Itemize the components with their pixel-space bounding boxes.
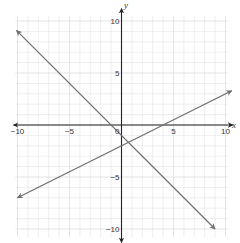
coordinate-plane: −10−5510105−5−10 x y 0 [0,0,240,243]
x-tick-label: 10 [221,127,230,136]
origin-label: 0 [115,127,120,136]
x-axis-label: x [231,120,236,130]
y-tick-label: 10 [111,17,120,26]
x-tick-label: 5 [171,127,176,136]
x-tick-label: −5 [65,127,75,136]
axes [13,9,232,243]
y-axis-label: y [123,0,128,10]
x-tick-label: −10 [11,127,25,136]
y-tick-label: −10 [106,225,120,234]
y-tick-label: −5 [110,173,120,182]
line-2 [18,91,232,198]
y-tick-label: 5 [115,69,120,78]
